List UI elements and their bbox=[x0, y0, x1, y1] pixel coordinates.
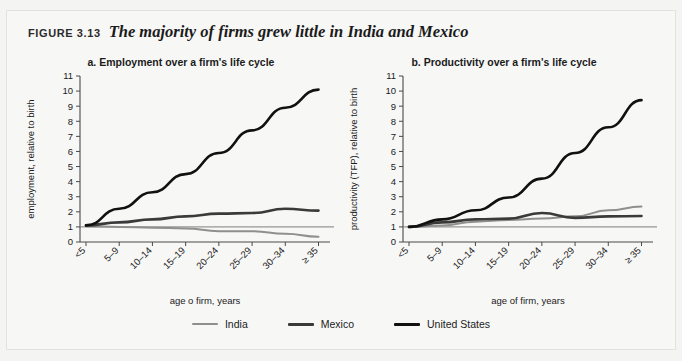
y-tick-label: 4 bbox=[391, 176, 396, 187]
legend-label: United States bbox=[427, 318, 490, 330]
legend-label: India bbox=[225, 318, 248, 330]
y-tick-label: 8 bbox=[68, 116, 73, 127]
chart-panel-b: b. Productivity over a firm's life cycle… bbox=[345, 56, 663, 311]
figure-title: The majority of firms grew little in Ind… bbox=[109, 22, 469, 42]
y-tick-label: 10 bbox=[62, 85, 73, 96]
panel-b-svg: 01234567891011<55–910–1415–1920–2425–293… bbox=[345, 70, 663, 308]
figure-container: FIGURE 3.13 The majority of firms grew l… bbox=[0, 0, 682, 361]
y-tick-label: 3 bbox=[68, 191, 73, 202]
x-tick-label: 15–19 bbox=[161, 245, 187, 271]
figure-header: FIGURE 3.13 The majority of firms grew l… bbox=[28, 22, 468, 42]
series-line-united-states bbox=[86, 90, 319, 226]
y-tick-label: 5 bbox=[391, 161, 396, 172]
x-tick-label: 5–9 bbox=[425, 245, 444, 264]
y-tick-label: 8 bbox=[391, 116, 396, 127]
y-tick-label: 1 bbox=[391, 221, 396, 232]
legend-swatch-icon bbox=[288, 323, 314, 326]
series-line-united-states bbox=[409, 100, 642, 227]
x-tick-label: 30–34 bbox=[583, 245, 609, 271]
x-tick-label: 25–29 bbox=[227, 245, 253, 271]
y-tick-label: 10 bbox=[385, 85, 396, 96]
legend-swatch-icon bbox=[394, 323, 420, 326]
y-axis-title: productivity (TFP), relative to birth bbox=[348, 88, 359, 231]
panel-a-plot: 01234567891011<55–910–1415–1920–2425–293… bbox=[22, 70, 340, 312]
x-axis-title: age of firm, years bbox=[491, 295, 565, 306]
x-tick-label: <5 bbox=[72, 245, 87, 260]
legend-label: Mexico bbox=[321, 318, 354, 330]
y-tick-label: 11 bbox=[386, 70, 396, 81]
x-tick-label: 20–24 bbox=[517, 245, 543, 271]
x-tick-label: 5–9 bbox=[102, 245, 121, 264]
y-tick-label: 9 bbox=[391, 101, 396, 112]
legend-swatch-icon bbox=[192, 323, 218, 325]
y-tick-label: 9 bbox=[68, 101, 73, 112]
legend-item-united-states: United States bbox=[394, 318, 490, 330]
y-tick-label: 7 bbox=[391, 131, 396, 142]
y-tick-label: 4 bbox=[68, 176, 73, 187]
x-axis-title: age o firm, years bbox=[170, 295, 241, 306]
x-tick-label: 25–29 bbox=[550, 245, 576, 271]
y-tick-label: 0 bbox=[68, 236, 73, 247]
y-tick-label: 3 bbox=[391, 191, 396, 202]
y-tick-label: 2 bbox=[391, 206, 396, 217]
x-tick-label: 20–24 bbox=[194, 245, 220, 271]
x-tick-label: ≥ 35 bbox=[299, 245, 320, 266]
legend-item-india: India bbox=[192, 318, 248, 330]
series-line-india bbox=[86, 226, 319, 237]
y-tick-label: 6 bbox=[391, 146, 396, 157]
chart-legend: IndiaMexicoUnited States bbox=[0, 318, 682, 330]
y-tick-label: 5 bbox=[68, 161, 73, 172]
panel-a-title: a. Employment over a firm's life cycle bbox=[22, 56, 340, 68]
panel-b-plot: 01234567891011<55–910–1415–1920–2425–293… bbox=[345, 70, 663, 312]
panel-a-svg: 01234567891011<55–910–1415–1920–2425–293… bbox=[22, 70, 340, 308]
panel-b-title: b. Productivity over a firm's life cycle bbox=[345, 56, 663, 68]
x-tick-label: <5 bbox=[395, 245, 410, 260]
chart-panel-a: a. Employment over a firm's life cycle 0… bbox=[22, 56, 340, 311]
x-tick-label: 10–14 bbox=[127, 245, 153, 271]
series-line-mexico bbox=[86, 209, 319, 226]
figure-number: FIGURE 3.13 bbox=[28, 27, 101, 39]
y-tick-label: 6 bbox=[68, 146, 73, 157]
x-tick-label: 15–19 bbox=[484, 245, 510, 271]
y-axis-title: employment, relative to birth bbox=[25, 99, 36, 218]
legend-item-mexico: Mexico bbox=[288, 318, 354, 330]
x-tick-label: 30–34 bbox=[260, 245, 286, 271]
y-tick-label: 1 bbox=[68, 221, 73, 232]
y-tick-label: 7 bbox=[68, 131, 73, 142]
x-tick-label: 10–14 bbox=[450, 245, 476, 271]
y-tick-label: 11 bbox=[63, 70, 73, 81]
y-tick-label: 0 bbox=[391, 236, 396, 247]
y-tick-label: 2 bbox=[68, 206, 73, 217]
x-tick-label: ≥ 35 bbox=[622, 245, 643, 266]
